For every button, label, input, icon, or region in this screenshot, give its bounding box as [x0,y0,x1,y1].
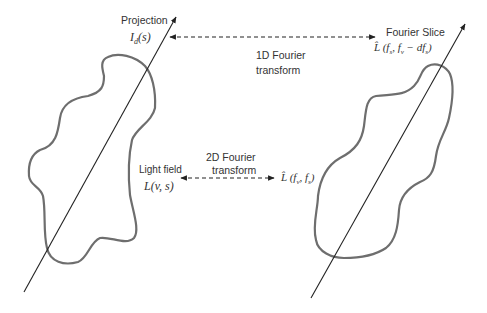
projection-label: Projection [121,15,168,26]
left-projection-axis [24,17,176,292]
projection-math: Id(s) [130,31,151,46]
fourier-slice-math: L̂ (fs, fv − dfs) [374,42,432,56]
bottom-arrow-label-line1: 2D Fourier [206,152,256,163]
fourier-spectrum-math: L̂ (fv, fs) [281,172,314,186]
fourier-slice-label: Fourier Slice [386,27,445,38]
top-arrow-label-line2: transform [256,65,300,76]
lightfield-math: L(v, s) [144,180,174,192]
lightfield-label: Light field [139,165,182,175]
left-lightfield-blob [29,55,155,264]
top-arrow-label-line1: 1D Fourier [256,50,306,61]
bottom-arrow-label-line2: transform [212,165,256,176]
right-fourier-blob [315,64,453,258]
